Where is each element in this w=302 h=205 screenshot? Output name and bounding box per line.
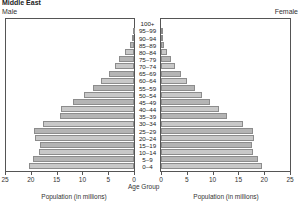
age-label: 95–99 [135,27,160,34]
female-bar [161,99,210,105]
age-group-axis-label: Age Group [128,183,159,190]
age-label: 35–39 [135,113,160,120]
tick-mark [264,172,265,175]
tick-mark [31,172,32,175]
male-bar [40,142,134,148]
female-bar [161,56,171,62]
female-bar [161,42,164,48]
male-bar [35,135,134,141]
tick-mark [108,172,109,175]
age-label: 40–44 [135,106,160,113]
male-bar [84,92,134,98]
male-bar [60,113,134,119]
male-bar [119,56,134,62]
age-label: 100+ [135,20,160,27]
male-bar [73,99,134,105]
tick-mark [187,172,188,175]
male-label: Male [2,8,17,15]
female-bar [161,106,219,112]
tick-mark [134,172,135,175]
tick-mark [213,172,214,175]
age-label: 30–34 [135,120,160,127]
female-bar [161,92,202,98]
tick-label-right: 20 [254,176,274,183]
male-bar [125,49,134,55]
male-bar [101,78,134,84]
tick-label-left: 20 [21,176,41,183]
tick-mark [238,172,239,175]
male-bar [109,71,134,77]
female-bar [161,142,252,148]
age-label: 20–24 [135,135,160,142]
tick-label-right: 10 [203,176,223,183]
female-bar [161,63,175,69]
age-label: 15–19 [135,142,160,149]
tick-label-right: 0 [151,176,171,183]
age-label: 25–29 [135,128,160,135]
x-axis-label-right: Population (in millions) [166,193,286,200]
female-bar [161,121,243,127]
tick-label-left: 15 [47,176,67,183]
male-bar [115,63,134,69]
x-axis-label-left: Population (in millions) [14,193,134,200]
female-bar [161,135,254,141]
male-bar [29,163,134,169]
tick-mark [161,172,162,175]
tick-mark [290,172,291,175]
tick-mark [82,172,83,175]
female-bar [161,49,167,55]
tick-label-right: 25 [280,176,300,183]
female-bar [161,28,163,34]
male-bar [61,106,134,112]
age-label: 65–69 [135,70,160,77]
male-bar [34,128,134,134]
age-label: 50–54 [135,92,160,99]
tick-label-left: 5 [98,176,118,183]
age-label: 0–4 [135,163,160,170]
age-label: 80–84 [135,49,160,56]
tick-mark [57,172,58,175]
tick-mark [5,172,6,175]
female-bar [161,128,253,134]
age-label: 70–74 [135,63,160,70]
male-bar [93,85,134,91]
female-bar [161,113,227,119]
age-label: 75–79 [135,56,160,63]
tick-label-right: 5 [177,176,197,183]
female-bar [161,163,262,169]
age-label: 85–89 [135,42,160,49]
male-bar [33,156,134,162]
female-bar [161,156,258,162]
male-bar [43,121,134,127]
tick-label-left: 0 [124,176,144,183]
age-label: 5–9 [135,156,160,163]
female-bar [161,35,163,41]
female-bar [161,149,253,155]
female-bar [161,78,187,84]
age-label: 90–94 [135,35,160,42]
age-label: 60–64 [135,77,160,84]
age-label: 55–59 [135,85,160,92]
female-bar [161,85,195,91]
tick-label-right: 15 [228,176,248,183]
age-label: 10–14 [135,149,160,156]
male-bar [39,149,134,155]
chart-title: Middle East [2,0,41,6]
female-label: Female [275,8,298,15]
male-bar [130,42,134,48]
age-label: 45–49 [135,99,160,106]
tick-label-left: 10 [72,176,92,183]
tick-label-left: 25 [0,176,15,183]
female-bar [161,71,181,77]
